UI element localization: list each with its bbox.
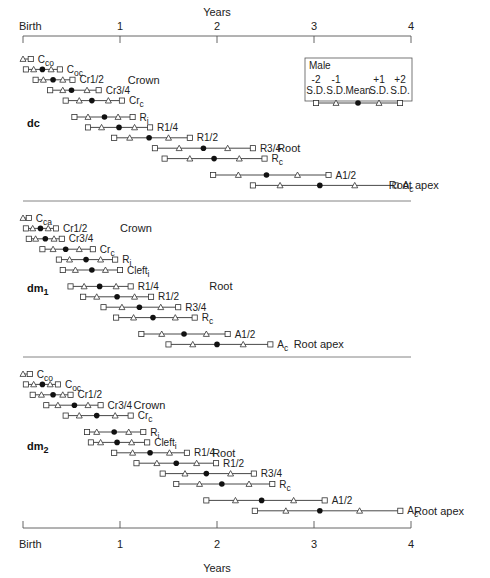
stage-label: Rc <box>272 153 284 167</box>
x-tick-label: 2 <box>214 20 220 32</box>
stage-row: Clefti <box>60 265 149 279</box>
mean-dot-marker <box>146 135 152 141</box>
phase-annotation: Crown <box>128 74 160 86</box>
stage-label: Crc <box>138 410 154 424</box>
dental-development-chart: Birth1234Years Birth1234Years Male-2S.D.… <box>0 0 490 578</box>
mean-dot-marker <box>211 156 217 162</box>
mean-dot-marker <box>114 440 120 446</box>
mean-dot-marker <box>97 284 103 290</box>
phase-annotation: Root apex <box>294 338 345 350</box>
phase-annotation: Root apex <box>389 179 440 191</box>
sd2-square-marker <box>397 100 402 105</box>
x-tick-label: Birth <box>19 538 42 550</box>
sd2-square-marker <box>30 392 35 397</box>
sd2-square-marker <box>145 440 150 445</box>
sd2-square-marker <box>114 315 119 320</box>
stage-row: R3/4 <box>152 143 281 154</box>
phase-annotation: Root <box>277 142 300 154</box>
stage-label: Cr1/2 <box>63 223 88 234</box>
sd2-square-marker <box>250 183 255 188</box>
mean-dot-marker <box>89 267 95 273</box>
stage-row: Crc <box>63 410 153 424</box>
stage-label: R1/4 <box>157 122 179 133</box>
sd2-square-marker <box>322 498 327 503</box>
mean-dot-marker <box>50 392 56 398</box>
legend-entry-bottom: S.D. <box>306 85 325 96</box>
sd2-square-marker <box>27 371 32 376</box>
sd2-square-marker <box>63 413 68 418</box>
sd2-square-marker <box>63 98 68 103</box>
top-x-axis: Birth1234Years <box>19 6 414 43</box>
stage-row: Rc <box>114 312 214 326</box>
sd2-square-marker <box>72 114 77 119</box>
mean-dot-marker <box>204 471 210 477</box>
sd2-square-marker <box>88 440 93 445</box>
x-tick-label: 3 <box>311 20 317 32</box>
stage-row: R1/4 <box>112 447 216 458</box>
sd2-square-marker <box>162 156 167 161</box>
stage-row: Cco <box>20 369 53 383</box>
stage-label: Clefti <box>154 437 177 451</box>
stage-label: R1/4 <box>138 281 160 292</box>
legend-entry-top: -1 <box>332 74 341 85</box>
mean-dot-marker <box>259 498 265 504</box>
panel-label: dm2 <box>27 440 49 455</box>
mean-dot-marker <box>219 481 225 487</box>
stage-label: Ri <box>140 112 149 126</box>
x-tick-label: Birth <box>19 20 42 32</box>
stage-row: Cca <box>20 213 52 227</box>
stage-row: A1/2 <box>211 170 357 181</box>
bottom-x-axis: Birth1234Years <box>19 521 414 574</box>
sd2-square-marker <box>225 331 230 336</box>
stage-row: Crc <box>63 95 144 109</box>
stage-label: R1/2 <box>197 132 219 143</box>
sd2-square-marker <box>60 267 65 272</box>
stage-label: R3/4 <box>261 468 283 479</box>
stage-row: Rc <box>162 153 284 167</box>
sd2-square-marker <box>48 88 53 93</box>
stage-label: Clefti <box>127 265 150 279</box>
x-axis-title: Years <box>203 562 231 574</box>
legend-entry-bottom: S.D. <box>369 85 388 96</box>
sd2-square-marker <box>213 461 218 466</box>
stage-label: Cr1/2 <box>78 389 103 400</box>
mean-dot-marker <box>69 87 75 93</box>
sd2-square-marker <box>113 257 118 262</box>
sd2-square-marker <box>23 382 28 387</box>
mean-dot-marker <box>63 246 69 252</box>
sd2-square-marker <box>211 172 216 177</box>
mean-dot-marker <box>173 460 179 466</box>
sd2-square-marker <box>251 471 256 476</box>
mean-dot-marker <box>94 413 100 419</box>
phase-annotation: Crown <box>120 222 152 234</box>
sd2-square-marker <box>117 267 122 272</box>
stage-label: Cco <box>38 54 54 68</box>
sd2-square-marker <box>70 77 75 82</box>
stage-row: A1/2 <box>204 495 353 506</box>
sd2-square-marker <box>40 247 45 252</box>
sd2-square-marker <box>160 471 165 476</box>
sd2-square-marker <box>84 429 89 434</box>
x-axis-title: Years <box>203 6 231 18</box>
sd2-square-marker <box>90 247 95 252</box>
legend-entry-bottom: S.D. <box>326 85 345 96</box>
stage-row: Cr1/2 <box>23 223 88 234</box>
sd2-square-marker <box>119 98 124 103</box>
stage-row: Crc <box>40 244 116 258</box>
x-tick-label: 4 <box>408 538 414 550</box>
stage-row: Ac <box>166 339 289 353</box>
legend-entry-bottom: S.D. <box>390 85 409 96</box>
sd2-square-marker <box>270 481 275 486</box>
sd2-square-marker <box>56 257 61 262</box>
stage-row: A1/2 <box>139 329 256 340</box>
panel-dm1: dm1CcaCr1/2Cr3/4CrcRiCleftiR1/4R1/2R3/4R… <box>20 213 344 353</box>
legend-entry-bottom: Mean <box>345 85 370 96</box>
stage-label: Crc <box>129 95 145 109</box>
sd2-square-marker <box>139 331 144 336</box>
stage-row: Clefti <box>88 437 176 451</box>
sd2-square-marker <box>81 294 86 299</box>
sd2-square-marker <box>176 305 181 310</box>
sd2-square-marker <box>134 461 139 466</box>
x-tick-label: 3 <box>311 538 317 550</box>
mean-dot-marker <box>355 100 361 106</box>
